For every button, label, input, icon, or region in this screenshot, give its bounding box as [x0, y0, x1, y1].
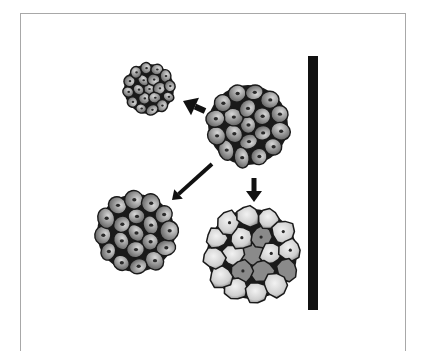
cell-clusters-illustration: [0, 0, 425, 351]
arrow-to-small: [183, 98, 205, 115]
diagram-canvas: [0, 0, 425, 351]
necrotic-cluster: [203, 206, 300, 303]
loose-cluster: [94, 187, 180, 276]
arrow-to-loose: [172, 164, 212, 200]
source-cluster: [204, 82, 293, 169]
small-cluster: [121, 62, 177, 118]
arrow-to-necrotic: [246, 178, 262, 202]
